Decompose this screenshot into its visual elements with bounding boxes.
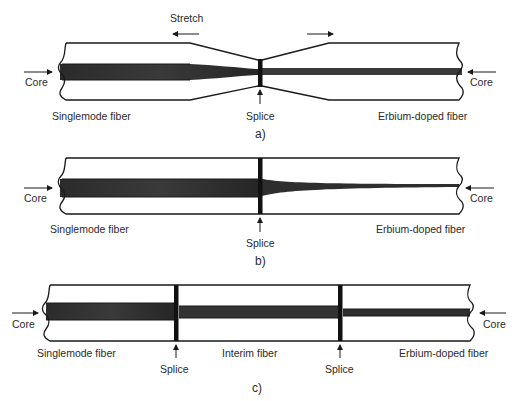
singlemode-fiber-label: Singlemode fiber [37, 347, 116, 359]
fiber-splice-diagram: Stretch Core Core Singlemode fiber Splic… [0, 0, 519, 401]
stretch-label: Stretch [170, 12, 203, 24]
interim-core [179, 306, 339, 318]
core-label-right: Core [470, 192, 493, 204]
splice-bar-2 [338, 285, 343, 341]
singlemode-core [46, 303, 175, 320]
interim-fiber-label: Interim fiber [222, 347, 278, 359]
core-label-right: Core [470, 76, 493, 88]
core-label-right: Core [483, 318, 506, 330]
panel-a-caption: a) [255, 127, 266, 141]
erbium-fiber-label: Erbium-doped fiber [378, 110, 468, 122]
panel-a: Stretch Core Core Singlemode fiber Splic… [24, 12, 496, 141]
splice-bar-1 [174, 285, 179, 341]
core-label-left: Core [25, 76, 48, 88]
erbium-fiber-label: Erbium-doped fiber [376, 223, 466, 235]
splice-label: Splice [246, 110, 275, 122]
splice-label-1: Splice [160, 363, 189, 375]
tapered-erbium-core [262, 179, 459, 196]
splice-label-2: Splice [325, 363, 354, 375]
panel-b-caption: b) [255, 254, 266, 268]
singlemode-core [60, 64, 258, 80]
singlemode-fiber-label: Singlemode fiber [52, 110, 131, 122]
erbium-core [343, 309, 470, 316]
core-label-left: Core [12, 318, 35, 330]
singlemode-core [60, 179, 258, 197]
erbium-fiber-label: Erbium-doped fiber [399, 347, 489, 359]
panel-c: Core Core Singlemode fiber Interim fiber… [12, 285, 506, 395]
singlemode-fiber-label: Singlemode fiber [50, 223, 129, 235]
splice-bar [258, 59, 263, 87]
panel-b: Core Core Singlemode fiber Erbium-doped … [24, 158, 494, 268]
splice-label: Splice [246, 237, 275, 249]
erbium-core [262, 68, 462, 75]
panel-c-caption: c) [252, 381, 262, 395]
core-label-left: Core [24, 192, 47, 204]
splice-bar [258, 158, 263, 214]
